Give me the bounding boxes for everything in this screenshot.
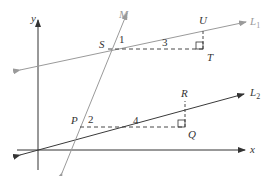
point-r-label: R bbox=[180, 87, 188, 99]
right-angle-marker-t bbox=[196, 42, 203, 49]
run-4-label: 4 bbox=[133, 114, 139, 126]
line-m bbox=[62, 13, 127, 173]
point-t-label: T bbox=[207, 51, 214, 63]
point-q-label: Q bbox=[188, 128, 196, 140]
run-3-label: 3 bbox=[162, 36, 168, 48]
angle-2-label: 2 bbox=[88, 113, 94, 125]
x-axis-label: x bbox=[249, 143, 255, 155]
point-s-label: S bbox=[99, 38, 105, 50]
point-u-label: U bbox=[199, 14, 208, 26]
point-p-label: P bbox=[70, 114, 78, 126]
right-angle-marker-q bbox=[178, 120, 185, 127]
diagram-canvas: y x M L1 L2 S 1 3 U T P 2 4 R Q bbox=[0, 0, 270, 176]
line-m-label: M bbox=[118, 8, 129, 20]
angle-1-label: 1 bbox=[119, 33, 125, 45]
line-l1-label: L1 bbox=[249, 15, 260, 30]
line-l2-label: L2 bbox=[249, 86, 260, 101]
y-axis-label: y bbox=[30, 12, 36, 24]
line-l2 bbox=[20, 94, 244, 155]
